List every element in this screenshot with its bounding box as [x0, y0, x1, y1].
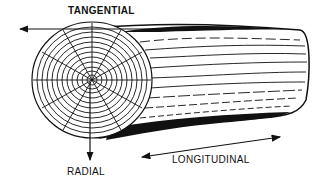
log-illustration: [0, 0, 321, 194]
radial-label: RADIAL: [67, 166, 105, 177]
wood-log-diagram: TANGENTIAL RADIAL LONGITUDINAL: [0, 0, 321, 194]
tangential-label: TANGENTIAL: [68, 5, 135, 16]
end-grain-cross-section: [32, 22, 152, 138]
longitudinal-arrow-right: [210, 137, 280, 147]
longitudinal-label: LONGITUDINAL: [172, 154, 250, 165]
